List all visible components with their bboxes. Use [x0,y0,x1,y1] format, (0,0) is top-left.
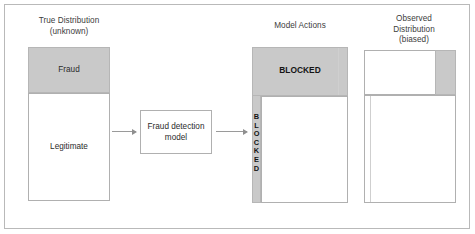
model-actions-allowed-segment [261,96,348,203]
observed-distribution-fraud-sliver [435,50,456,95]
observed-distribution-inner-divider [370,96,371,202]
model-actions-blocked-strip: B L O C K E D [252,96,261,203]
arrow-distribution-to-model [112,131,136,132]
blocked-top-label: BLOCKED [253,65,347,75]
legitimate-label: Legitimate [29,142,109,151]
column-title-true-distribution: True Distribution (unknown) [14,16,124,37]
model-box-label: Fraud detection model [145,121,208,143]
true-distribution-legitimate-segment: Legitimate [28,93,110,201]
fraud-detection-model-box: Fraud detection model [140,110,212,154]
blocked-vertical-label: B L O C K E D [253,113,260,173]
true-distribution-fraud-segment: Fraud [28,47,110,93]
diagram-canvas: True Distribution (unknown) Fraud Legiti… [0,0,475,234]
observed-distribution-bottom-segment [364,95,456,203]
model-actions-blocked-segment: BLOCKED [252,47,348,96]
arrow-model-to-actions [216,131,247,132]
column-title-model-actions: Model Actions [248,21,352,32]
model-actions-top-divider [338,48,339,95]
column-title-observed-distribution: Observed Distribution (biased) [368,14,460,46]
fraud-label: Fraud [29,65,109,74]
